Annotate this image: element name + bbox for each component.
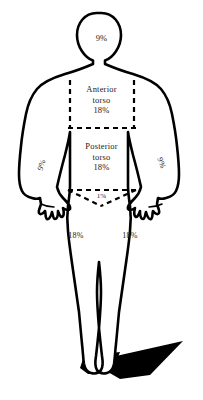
rule-of-nines-diagram: 9% Anterior torso 18% Posterior torso 18…: [0, 0, 203, 400]
cast-shadow: [108, 341, 183, 379]
body-silhouette-svg: [0, 0, 203, 400]
body-outline: [19, 13, 179, 373]
